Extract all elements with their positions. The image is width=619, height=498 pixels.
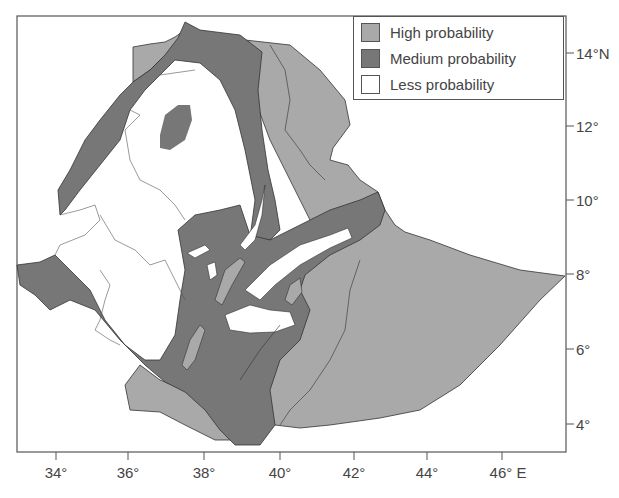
- legend-label-less: Less probability: [390, 76, 494, 93]
- x-tick-44: 44°: [416, 464, 439, 481]
- legend-item-high: High probability: [361, 22, 493, 42]
- x-tick-34: 34°: [45, 464, 68, 481]
- y-tick-12: 12°: [576, 118, 599, 135]
- swatch-medium: [361, 49, 380, 68]
- legend-item-less: Less probability: [361, 74, 494, 94]
- legend-label-medium: Medium probability: [390, 50, 516, 67]
- swatch-high: [361, 23, 380, 42]
- legend-label-high: High probability: [390, 24, 493, 41]
- y-tick-10: 10°: [576, 192, 599, 209]
- swatch-less: [361, 75, 380, 94]
- map-legend: High probability Medium probability Less…: [353, 16, 564, 100]
- x-tick-36: 36°: [117, 464, 140, 481]
- y-tick-6: 6°: [576, 341, 590, 358]
- x-tick-46: 46° E: [490, 464, 527, 481]
- x-tick-42: 42°: [343, 464, 366, 481]
- x-tick-40: 40°: [269, 464, 292, 481]
- y-tick-4: 4°: [576, 416, 590, 433]
- legend-item-medium: Medium probability: [361, 48, 516, 68]
- y-tick-14: 14°N: [576, 45, 610, 62]
- y-tick-8: 8°: [576, 266, 590, 283]
- x-tick-38: 38°: [193, 464, 216, 481]
